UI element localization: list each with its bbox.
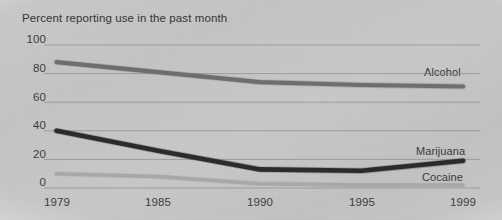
chart-plot-area xyxy=(0,0,502,220)
chart-figure: Percent reporting use in the past month … xyxy=(0,0,502,220)
series-line-cocaine xyxy=(57,174,464,185)
series-lines-group xyxy=(57,62,464,185)
series-line-marijuana xyxy=(57,131,464,171)
